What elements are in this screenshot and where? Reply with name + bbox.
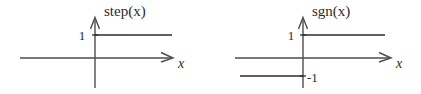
sgn-tick-label-one: 1 [288, 28, 295, 43]
step-function-name: step [104, 3, 128, 19]
sgn-function-name: sgn [312, 3, 333, 19]
step-x-axis-arrow-icon [161, 53, 173, 63]
step-function-label: step(x) [104, 3, 146, 20]
step-and-sgn-figure: step(x) 1 x sgn(x) 1 -1 x [0, 0, 421, 94]
plot-step: step(x) 1 x [20, 3, 185, 88]
step-function-close-paren: ) [141, 3, 146, 20]
function-plots-svg: step(x) 1 x sgn(x) 1 -1 x [0, 0, 421, 94]
sgn-x-axis-arrow-icon [379, 53, 391, 63]
sgn-tick-label-minus-one: -1 [307, 70, 318, 85]
sgn-function-close-paren: ) [345, 3, 350, 20]
sgn-function-label: sgn(x) [312, 3, 350, 20]
step-x-axis-label: x [177, 56, 185, 71]
plot-sgn: sgn(x) 1 -1 x [235, 3, 403, 88]
sgn-x-axis-label: x [395, 56, 403, 71]
step-tick-label-one: 1 [79, 28, 86, 43]
